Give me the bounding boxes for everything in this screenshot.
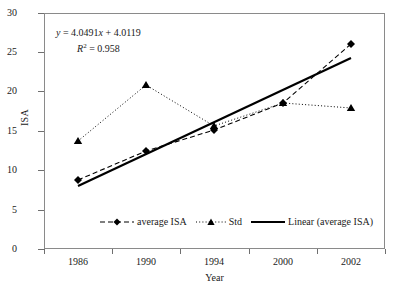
y-tick-mark-15: [38, 131, 44, 132]
triangle-marker-icon: [196, 217, 226, 227]
diamond-marker-icon: [100, 217, 134, 227]
x-tick-mark-3: [249, 249, 250, 254]
legend-item-linear-average-isa[interactable]: Linear (average ISA): [251, 216, 373, 227]
y-tick-label-20: 20: [0, 86, 17, 96]
y-tick-mark-20: [38, 91, 44, 92]
legend-label-average-isa: average ISA: [137, 216, 187, 227]
chart-legend: average ISA Std Linear (average ISA): [100, 216, 373, 227]
y-tick-label-5: 5: [0, 205, 17, 215]
y-tick-label-30: 30: [0, 8, 17, 18]
x-tick-label-2002: 2002: [321, 256, 381, 267]
x-tick-mark-4: [317, 249, 318, 254]
y-tick-mark-10: [38, 170, 44, 171]
x-tick-label-1990: 1990: [116, 256, 176, 267]
y-tick-label-0: 0: [0, 244, 17, 254]
y-tick-mark-30: [38, 13, 44, 14]
y-tick-mark-5: [38, 210, 44, 211]
legend-item-average-isa[interactable]: average ISA: [100, 216, 187, 227]
regression-annotation: y = 4.0491x + 4.0119 R2 = 0.958: [56, 26, 141, 56]
y-tick-label-15: 15: [0, 126, 17, 136]
equation-body: = 4.0491: [60, 27, 98, 38]
x-tick-mark-5: [385, 249, 386, 254]
r-squared-value: = 0.958: [87, 43, 120, 54]
solid-line-icon: [251, 217, 285, 227]
legend-label-std: Std: [229, 216, 242, 227]
y-tick-label-10: 10: [0, 165, 17, 175]
x-tick-mark-0: [44, 249, 45, 254]
legend-item-std[interactable]: Std: [196, 216, 242, 227]
x-tick-label-1994: 1994: [184, 256, 244, 267]
y-tick-mark-25: [38, 52, 44, 53]
x-tick-label-2000: 2000: [253, 256, 313, 267]
chart-figure: ISA 30 25 20 15 10 5 0 1986 1990 1994 20…: [0, 0, 404, 293]
x-tick-mark-1: [112, 249, 113, 254]
y-tick-label-25: 25: [0, 47, 17, 57]
x-tick-label-1986: 1986: [48, 256, 108, 267]
x-axis-title: Year: [44, 272, 385, 283]
x-tick-mark-2: [180, 249, 181, 254]
legend-label-linear-average-isa: Linear (average ISA): [288, 216, 373, 227]
equation-intercept: + 4.0119: [103, 27, 141, 38]
y-axis-title: ISA: [19, 88, 30, 148]
